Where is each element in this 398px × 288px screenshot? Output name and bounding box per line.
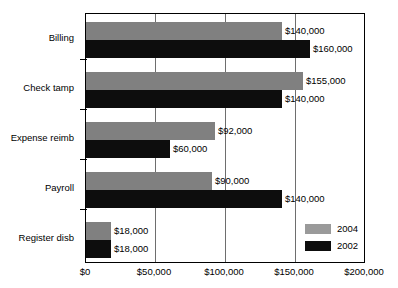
bar-value-2004-payroll: $90,000: [212, 172, 249, 190]
xtick-label-50000: $50,000: [137, 266, 171, 278]
bar-value-2004-register-disb: $18,000: [111, 222, 148, 240]
bar-value-2002-check-tamp: $140,000: [282, 90, 325, 108]
legend-label-2004: 2004: [337, 222, 358, 236]
category-label-expense-reimb: Expense reimb: [0, 132, 74, 143]
chart-legend: 2004 2002: [305, 222, 377, 256]
bar-2002-payroll: [86, 190, 282, 208]
axis-tick-1: [80, 59, 87, 60]
bar-2004-payroll: [86, 172, 212, 190]
legend-item-2002: 2002: [305, 239, 377, 253]
bar-2002-check-tamp: [86, 90, 282, 108]
xtick-label-200000: $200,000: [344, 266, 384, 278]
bar-value-2004-check-tamp: $155,000: [303, 72, 346, 90]
xtick-label-150000: $150,000: [274, 266, 314, 278]
axis-tick-3: [80, 159, 87, 160]
bar-chart: Billing Check tamp Expense reimb Payroll…: [0, 0, 398, 288]
x-axis-tick-labels: $0 $50,000 $100,000 $150,000 $200,000: [85, 266, 365, 280]
bar-value-2002-billing: $160,000: [310, 40, 353, 58]
bar-2004-expense-reimb: [86, 122, 215, 140]
bar-2002-expense-reimb: [86, 140, 170, 158]
bar-2004-check-tamp: [86, 72, 303, 90]
category-label-payroll: Payroll: [0, 182, 74, 193]
bar-value-2002-payroll: $140,000: [282, 190, 325, 208]
legend-item-2004: 2004: [305, 222, 377, 236]
bar-2002-billing: [86, 40, 310, 58]
category-label-billing: Billing: [0, 32, 74, 43]
bar-2004-register-disb: [86, 222, 111, 240]
bar-value-2002-expense-reimb: $60,000: [170, 140, 207, 158]
axis-tick-4: [80, 209, 87, 210]
bar-2004-billing: [86, 22, 282, 40]
xtick-label-0: $0: [80, 266, 91, 278]
bar-value-2004-expense-reimb: $92,000: [215, 122, 252, 140]
legend-swatch-2002-icon: [305, 241, 331, 251]
legend-label-2002: 2002: [337, 239, 358, 253]
xtick-label-100000: $100,000: [204, 266, 244, 278]
axis-tick-2: [80, 109, 87, 110]
category-label-register-disb: Register disb: [0, 232, 74, 243]
bar-value-2004-billing: $140,000: [282, 22, 325, 40]
bar-2002-register-disb: [86, 240, 111, 258]
clipped-bottom-caption: [0, 282, 398, 288]
bar-value-2002-register-disb: $18,000: [111, 240, 148, 258]
category-label-check-tamp: Check tamp: [0, 82, 74, 93]
legend-swatch-2004-icon: [305, 224, 331, 234]
category-axis-labels: Billing Check tamp Expense reimb Payroll…: [0, 13, 79, 263]
